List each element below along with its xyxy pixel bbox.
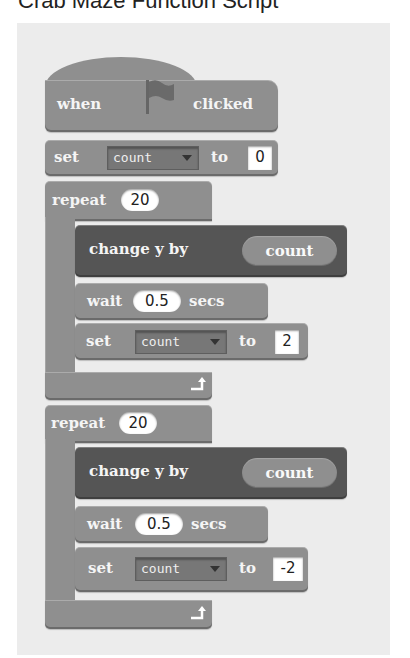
change-y-by-label: change y by xyxy=(89,240,188,258)
count-reporter[interactable]: count xyxy=(242,236,337,266)
repeat-count-input[interactable]: 20 xyxy=(119,412,157,434)
repeat-header: repeat 20 xyxy=(45,181,212,221)
wait-label: wait xyxy=(87,515,122,533)
wait-block[interactable]: wait 0.5 secs xyxy=(75,506,268,543)
repeat-arm xyxy=(45,217,75,377)
variable-dropdown[interactable]: count xyxy=(107,146,199,170)
dropdown-arrow-icon xyxy=(210,566,220,572)
set-label: set xyxy=(88,559,113,577)
secs-label: secs xyxy=(191,515,227,533)
wait-block[interactable]: wait 0.5 secs xyxy=(75,283,268,320)
loop-arrow-icon xyxy=(190,377,208,391)
repeat-arm xyxy=(45,439,75,604)
wait-seconds-input[interactable]: 0.5 xyxy=(133,290,181,312)
variable-dropdown[interactable]: count xyxy=(135,330,227,354)
repeat-label: repeat xyxy=(51,414,105,432)
repeat-label: repeat xyxy=(52,191,106,209)
change-y-by-label: change y by xyxy=(89,462,188,480)
set-label: set xyxy=(54,148,79,166)
repeat-footer xyxy=(45,372,212,400)
page-title: Crab Maze Function Script xyxy=(18,0,278,14)
set-variable-block[interactable]: set count to 0 xyxy=(45,140,278,176)
change-y-by-block[interactable]: change y by count xyxy=(75,225,347,277)
variable-name: count xyxy=(141,334,180,349)
wait-label: wait xyxy=(87,292,122,310)
when-label: when xyxy=(57,95,101,113)
value-input[interactable]: 2 xyxy=(275,330,299,354)
to-label: to xyxy=(211,148,228,166)
to-label: to xyxy=(239,559,256,577)
variable-dropdown[interactable]: count xyxy=(135,557,227,581)
set-variable-block[interactable]: set count to 2 xyxy=(75,323,308,360)
wait-seconds-input[interactable]: 0.5 xyxy=(135,513,183,535)
set-variable-block[interactable]: set count to -2 xyxy=(75,547,308,592)
dropdown-arrow-icon xyxy=(182,155,192,161)
green-flag-icon xyxy=(142,76,176,120)
variable-name: count xyxy=(113,150,152,165)
set-label: set xyxy=(86,332,111,350)
value-input[interactable]: -2 xyxy=(273,557,303,581)
clicked-label: clicked xyxy=(193,95,253,113)
to-label: to xyxy=(239,332,256,350)
variable-name: count xyxy=(141,561,180,576)
repeat-count-input[interactable]: 20 xyxy=(121,189,159,211)
secs-label: secs xyxy=(189,292,225,310)
count-reporter[interactable]: count xyxy=(242,458,337,488)
when-flag-clicked-block[interactable]: when clicked xyxy=(45,80,278,132)
change-y-by-block[interactable]: change y by count xyxy=(75,447,347,499)
dropdown-arrow-icon xyxy=(210,339,220,345)
repeat-header: repeat 20 xyxy=(45,405,212,443)
repeat-footer xyxy=(45,600,212,629)
loop-arrow-icon xyxy=(190,606,208,620)
value-input[interactable]: 0 xyxy=(248,146,272,170)
